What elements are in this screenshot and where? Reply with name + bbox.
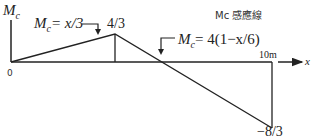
origin-label: 0 (7, 68, 13, 78)
x-axis-label: x (304, 55, 310, 67)
right-equation: Mc= 4(1−x/6) (177, 31, 260, 50)
end-value-label: −8/3 (257, 124, 283, 137)
left-leader (82, 24, 98, 32)
left-equation: Mc= x/3 (33, 15, 83, 34)
span-label: 10m (259, 49, 277, 60)
y-axis-label: Mc (2, 2, 21, 21)
left-leader-arrowhead (95, 29, 101, 35)
diagram-title: Mc 感應線 (215, 9, 262, 21)
influence-line-diagram: Mc Mc= x/3 4/3 Mc 感應線 Mc= 4(1−x/6) 10m x… (0, 0, 314, 137)
peak-value-label: 4/3 (107, 16, 125, 31)
influence-line (11, 34, 272, 128)
right-leader-arrowhead (158, 49, 164, 55)
